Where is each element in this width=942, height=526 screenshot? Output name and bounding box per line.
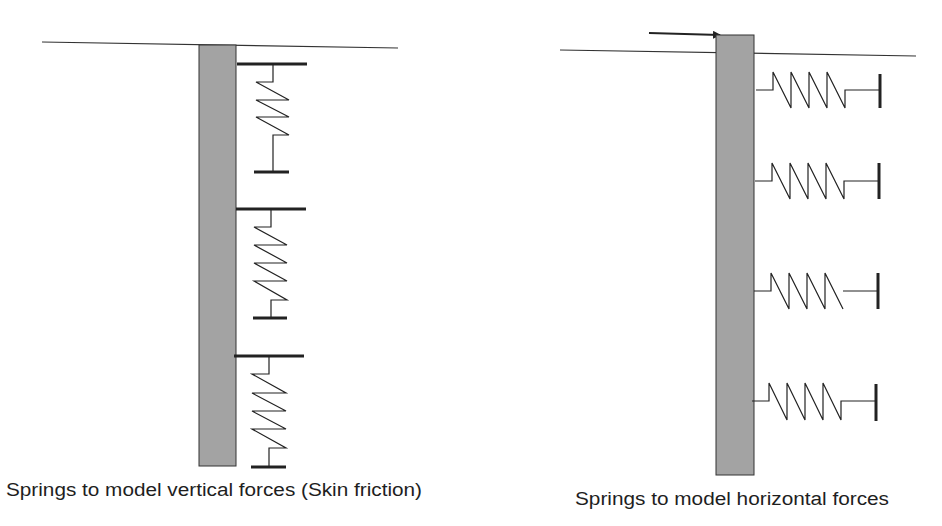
left-panel-vertical-springs: Springs to model vertical forces (Skin f… [6, 42, 422, 500]
pile-right [716, 35, 754, 475]
horizontal-spring-2 [755, 163, 879, 199]
vertical-spring-3 [234, 356, 304, 467]
right-panel-horizontal-springs: Springs to model horizontal forces [560, 33, 916, 509]
caption-horizontal-forces: Springs to model horizontal forces [575, 489, 889, 509]
caption-vertical-forces: Springs to model vertical forces (Skin f… [6, 480, 422, 500]
pile-left [199, 45, 236, 466]
vertical-spring-2 [236, 209, 306, 318]
horizontal-spring-3 [754, 273, 878, 309]
vertical-spring-1 [237, 64, 307, 172]
load-arrow [649, 33, 720, 35]
horizontal-spring-1 [756, 72, 880, 108]
pile-spring-diagram: Springs to model vertical forces (Skin f… [0, 0, 942, 526]
horizontal-spring-4 [752, 383, 876, 421]
